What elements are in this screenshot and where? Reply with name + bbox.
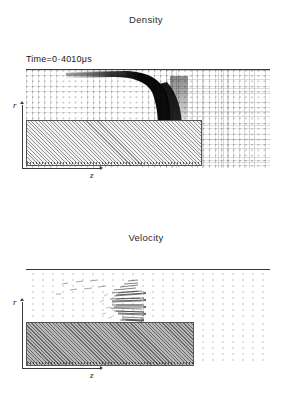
velocity-panel-title: Velocity	[0, 232, 292, 243]
density-time-units: μs	[82, 54, 92, 64]
density-z-axis-line	[22, 168, 100, 169]
density-plot-area	[26, 70, 270, 168]
velocity-plot-area	[26, 270, 270, 368]
density-r-axis-arrow	[20, 101, 24, 104]
density-panel-title: Density	[0, 14, 292, 25]
density-panel: Density Time=0·4010μs	[0, 0, 292, 196]
density-block-bottom-edge	[27, 162, 201, 164]
velocity-r-axis-line	[22, 302, 23, 368]
density-r-axis-line	[22, 105, 23, 168]
velocity-r-axis-label: r	[13, 297, 17, 307]
density-material-block	[26, 120, 202, 166]
velocity-material-block	[26, 322, 194, 366]
density-time-prefix: Time=	[26, 54, 52, 64]
velocity-z-axis-arrow	[100, 366, 103, 370]
figure-root: Density Time=0·4010μs	[0, 0, 292, 393]
velocity-r-axis-arrow	[20, 298, 24, 301]
velocity-block-bottom-edge	[27, 362, 193, 364]
density-r-axis-label: r	[13, 100, 17, 110]
density-z-axis-label: z	[90, 170, 94, 180]
density-time-label: Time=0·4010μs	[26, 54, 92, 64]
velocity-z-axis-line	[22, 368, 100, 369]
velocity-z-axis-label: z	[90, 370, 94, 380]
density-time-fraction: 4010	[61, 54, 82, 64]
velocity-panel: Velocity Time=0·4010μs	[0, 196, 292, 393]
density-z-axis-arrow	[100, 166, 103, 170]
